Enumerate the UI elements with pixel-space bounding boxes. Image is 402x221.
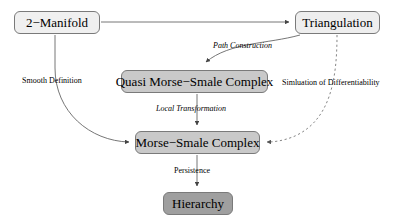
edge-label-local-transformation: Local Transformation	[156, 105, 226, 113]
node-morse-smale-complex[interactable]: Morse−Smale Complex	[135, 131, 260, 154]
node-hierarchy[interactable]: Hierarchy	[163, 192, 233, 215]
node-2-manifold[interactable]: 2−Manifold	[14, 11, 100, 34]
edge-triangulation-to-msc	[267, 35, 337, 142]
edge-label-path-construction: Path Construction	[213, 42, 272, 50]
edge-label-simulation-of-differentiability: Simluation of Differentiability	[282, 79, 380, 87]
node-quasi-morse-smale-complex[interactable]: Quasi Morse−Smale Complex	[121, 70, 268, 93]
edge-label-persistence: Persistence	[174, 167, 210, 175]
edge-label-smooth-definition: Smooth Definition	[22, 77, 82, 85]
diagram-canvas: 2−Manifold Triangulation Quasi Morse−Sma…	[0, 0, 402, 221]
node-triangulation[interactable]: Triangulation	[295, 11, 380, 34]
